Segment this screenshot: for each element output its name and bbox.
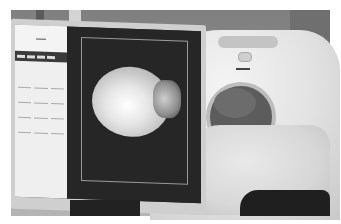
protocol-button[interactable] (51, 97, 64, 104)
patient-head (214, 88, 256, 118)
protocol-button[interactable] (51, 112, 64, 119)
protocol-button[interactable] (18, 111, 31, 118)
facial-bones-image (153, 80, 181, 119)
protocol-button[interactable] (34, 111, 47, 118)
patient-legs (240, 190, 330, 216)
header-label (36, 38, 46, 39)
toolbar-button[interactable] (47, 55, 55, 58)
protocol-button[interactable] (18, 96, 31, 103)
side-panel-header (15, 25, 67, 53)
protocol-button[interactable] (34, 81, 47, 88)
monitor (11, 19, 206, 216)
side-panel (15, 25, 67, 199)
gantry-control-panel (218, 36, 278, 48)
protocol-button[interactable] (34, 96, 47, 103)
protocol-button[interactable] (34, 126, 47, 133)
toolbar-button[interactable] (37, 55, 45, 58)
monitor-stand (70, 200, 140, 216)
toolbar-button[interactable] (27, 55, 35, 58)
protocol-button[interactable] (18, 81, 31, 88)
gantry-indicator (236, 68, 250, 70)
toolbar-button[interactable] (17, 54, 25, 57)
protocol-button[interactable] (51, 127, 64, 134)
screen (15, 25, 201, 203)
protocol-grid (15, 61, 67, 135)
protocol-button[interactable] (51, 82, 64, 89)
protocol-button[interactable] (18, 126, 31, 133)
gantry-logo-icon (238, 52, 252, 62)
image-viewer[interactable] (67, 27, 201, 204)
